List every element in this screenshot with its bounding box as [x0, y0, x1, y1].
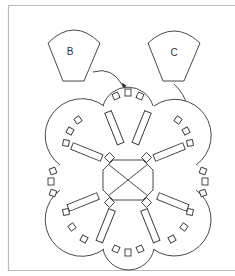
piece-b — [48, 30, 100, 81]
flower-assembly — [45, 87, 211, 270]
piece-c-label: C — [170, 47, 177, 58]
assembly-diagram: B C — [0, 0, 235, 276]
arrow-b-to-top — [93, 71, 123, 86]
piece-b-label: B — [67, 46, 74, 57]
